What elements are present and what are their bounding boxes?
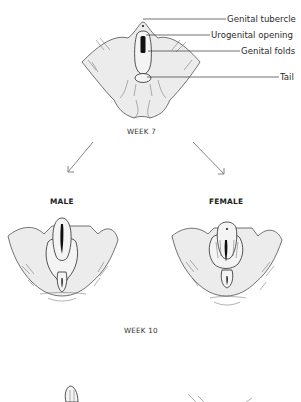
later-stage-female-partial (188, 394, 252, 402)
caption-week7: WEEK 7 (127, 127, 156, 136)
female-week10-illustration (172, 222, 282, 305)
label-genital-folds: Genital folds (241, 46, 296, 56)
label-female: FEMALE (209, 197, 243, 206)
urogenital-opening-mark (141, 36, 146, 53)
male-week10-illustration (8, 218, 118, 301)
label-male: MALE (50, 197, 74, 206)
label-urogenital-opening: Urogenital opening (211, 30, 293, 40)
arrow-to-female (193, 142, 224, 174)
label-tail: Tail (279, 72, 294, 82)
genital-tubercle-mark (142, 25, 144, 27)
caption-week10: WEEK 10 (124, 326, 158, 335)
embryo-diagram: Genital tubercle Urogenital opening Geni… (0, 0, 301, 402)
label-genital-tubercle: Genital tubercle (227, 14, 296, 24)
tail-mark (135, 74, 151, 83)
week7-illustration (82, 22, 200, 118)
arrow-to-male (68, 142, 93, 172)
later-stage-male-partial (65, 386, 78, 402)
